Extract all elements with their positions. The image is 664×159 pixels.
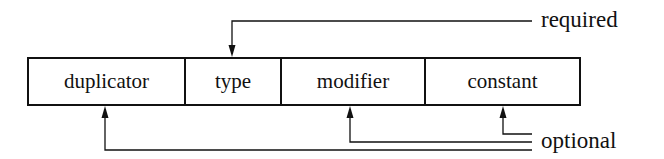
field-format-diagram: duplicator type modifier constant requir… xyxy=(0,0,664,159)
required-label: required xyxy=(541,7,618,32)
field-type: type xyxy=(215,69,251,93)
field-duplicator: duplicator xyxy=(64,69,149,93)
arrow-up-icon xyxy=(500,106,507,118)
optional-connector-constant xyxy=(500,106,533,134)
optional-label: optional xyxy=(541,128,616,153)
arrow-up-icon xyxy=(347,106,354,118)
field-constant: constant xyxy=(468,69,538,93)
required-connector xyxy=(229,21,533,57)
optional-connector-duplicator xyxy=(102,106,533,150)
arrow-down-icon xyxy=(229,45,236,57)
arrow-up-icon xyxy=(102,106,109,118)
field-modifier: modifier xyxy=(317,69,389,93)
